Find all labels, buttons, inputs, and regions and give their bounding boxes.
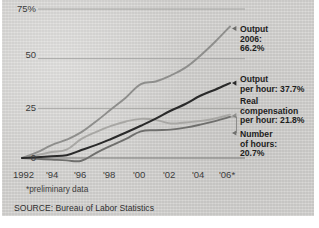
- series-line: [22, 115, 230, 158]
- x-tick-2000: '00: [133, 170, 145, 180]
- legend-real-compensation-line3: per hour: 21.8%: [240, 116, 304, 126]
- series-line: [22, 117, 230, 162]
- y-tick-0: 0: [6, 153, 36, 163]
- x-tick-2006: '06*: [219, 170, 235, 180]
- series-lines: [22, 26, 230, 161]
- x-tick-2004: '04: [192, 170, 204, 180]
- hours-label-connector: [230, 117, 237, 133]
- legend-output-per-hour: Output per hour: 37.7%: [240, 75, 304, 94]
- legend-leader-marker: [232, 113, 236, 118]
- legend-number-of-hours: Number of hours: 20.7%: [240, 130, 277, 159]
- x-tick-1998: '98: [103, 170, 115, 180]
- gridlines: [38, 9, 245, 108]
- legend-leader-marker: [232, 26, 236, 31]
- y-tick-50: 50: [6, 50, 36, 60]
- x-tick-2002: '02: [163, 170, 175, 180]
- x-tick-1992: 1992: [13, 170, 34, 180]
- legend-leader-markers: [230, 26, 237, 136]
- y-tick-25: 25: [6, 103, 36, 113]
- legend-real-compensation: Real compensation per hour: 21.8%: [240, 97, 304, 126]
- legend-leader-marker: [232, 81, 236, 86]
- source-attribution: SOURCE: Bureau of Labor Statistics: [14, 203, 154, 213]
- legend-leader-marker: [232, 130, 236, 135]
- y-tick-75: 75%: [6, 4, 36, 14]
- legend-output: Output 2006: 66.2%: [240, 25, 268, 54]
- legend-output-per-hour-line2: per hour: 37.7%: [240, 85, 304, 95]
- chart-figure: 75% 50 25 0 1992 '94 '96 '98 '00 '02 '04…: [0, 0, 319, 228]
- legend-output-line3: 66.2%: [240, 44, 268, 54]
- x-tick-1994: '94: [46, 170, 58, 180]
- legend-number-of-hours-line3: 20.7%: [240, 149, 277, 159]
- footnote-preliminary: *preliminary data: [26, 184, 88, 194]
- x-tick-1996: '96: [74, 170, 86, 180]
